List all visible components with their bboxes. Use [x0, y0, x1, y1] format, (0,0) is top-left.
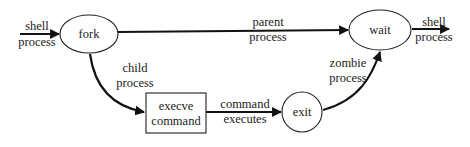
edge-label: executes	[223, 112, 266, 126]
node-exit: exit	[282, 92, 322, 132]
edge-label: process	[249, 30, 287, 44]
edge-label: process	[116, 76, 154, 90]
process-lifecycle-diagram: shell process parent process shell proce…	[0, 0, 470, 147]
edge-wait-to-shell: shell process	[412, 15, 453, 44]
edge-execve-to-exit: command executes	[206, 97, 281, 126]
node-fork: fork	[60, 15, 118, 53]
arrow-parent	[118, 30, 348, 32]
edge-label: zombie	[330, 56, 367, 70]
edge-label: command	[220, 97, 270, 111]
node-label: wait	[369, 23, 391, 37]
edge-label: process	[415, 30, 453, 44]
edge-label: process	[329, 71, 367, 85]
edge-shell-to-fork: shell process	[18, 19, 59, 49]
edge-label: shell	[422, 15, 446, 29]
node-label: command	[151, 114, 201, 128]
node-label: fork	[79, 27, 101, 41]
edge-label: shell	[25, 19, 49, 33]
node-wait: wait	[349, 10, 411, 50]
node-execve: execve command	[146, 93, 206, 133]
edge-exit-to-wait: zombie process	[323, 52, 380, 110]
node-label: execve	[159, 99, 194, 113]
edge-fork-to-wait: parent process	[118, 15, 348, 44]
edge-label: child	[123, 61, 149, 75]
edge-fork-to-execve: child process	[90, 54, 154, 112]
edge-label: process	[18, 35, 56, 49]
edge-label: parent	[252, 15, 284, 29]
node-label: exit	[293, 105, 312, 119]
